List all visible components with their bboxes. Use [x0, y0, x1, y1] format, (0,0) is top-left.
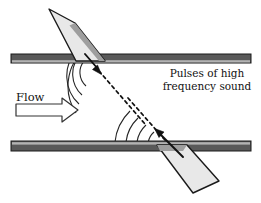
pipe-wall-lower-highlight	[12, 142, 250, 144]
pipe-wall-upper	[11, 54, 251, 63]
flow-label: Flow	[16, 90, 45, 104]
diagram-canvas: Flow Pulses of high frequency sound	[0, 0, 261, 203]
pulses-label-line2: frequency sound	[163, 80, 252, 92]
ultrasonic-flow-meter-figure: Flow Pulses of high frequency sound	[0, 0, 261, 203]
pulses-label-line1: Pulses of high	[170, 67, 245, 79]
pipe-wall-lower	[11, 141, 251, 151]
pipe-wall-upper-highlight	[12, 60, 250, 62]
